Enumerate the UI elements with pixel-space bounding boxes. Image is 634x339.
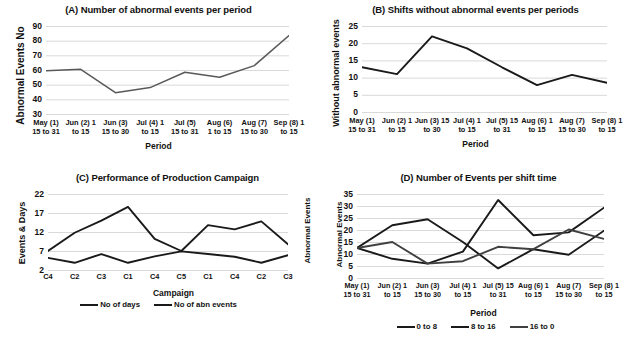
- x-tick-label: Aug (7)15 to 30: [552, 116, 592, 134]
- chart-b-plot-area: [362, 26, 607, 112]
- legend-line-icon: [80, 304, 98, 306]
- chart-d-legend: 0 to 88 to 1616 to 0: [317, 323, 634, 331]
- y-tick-label: 30: [20, 110, 42, 119]
- y-tick-label: 40: [20, 95, 42, 104]
- x-tick-label: Jul (4) 1to 15: [443, 282, 483, 300]
- y-tick-label: 50: [20, 80, 42, 89]
- x-tick-label: Sep (8) 1to 15: [584, 282, 624, 300]
- chart-a-plot-area: [46, 26, 289, 114]
- y-tick-label: 10: [336, 73, 358, 82]
- chart-a-x-axis-title: Period: [0, 141, 317, 151]
- x-tick-label: Jul (4) 1to 15: [447, 116, 487, 134]
- x-tick-label: C1: [195, 272, 221, 281]
- legend-item[interactable]: 0 to 8: [397, 323, 437, 331]
- x-tick-label: C2: [62, 272, 88, 281]
- x-tick-label: C3: [88, 272, 114, 281]
- chart-c-y-axis-title-right: Abnormal Events: [303, 176, 312, 286]
- x-tick-label: Sep (8) 1to 15: [587, 116, 627, 134]
- legend-line-icon: [451, 326, 469, 328]
- legend-label: 16 to 0: [530, 323, 555, 331]
- x-tick-label: Jul (5) 15to 31: [482, 116, 522, 134]
- legend-label: 0 to 8: [417, 323, 437, 331]
- x-tick-label: C4: [35, 272, 61, 281]
- chart-d-y-axis-title: Abnormal Events: [335, 183, 344, 287]
- x-tick-label: Jun (3) 15to 30: [412, 116, 452, 134]
- x-tick-label: C4: [142, 272, 168, 281]
- y-tick-label: 90: [20, 22, 42, 31]
- y-tick-label: 30: [331, 202, 353, 211]
- y-tick-label: 22: [22, 190, 44, 199]
- y-tick-label: 80: [20, 36, 42, 45]
- legend-label: 8 to 16: [471, 323, 496, 331]
- x-tick-label: Aug (6) 1to 15: [513, 282, 553, 300]
- chart-panel-d: (D) Number of Events per shift time Abno…: [317, 168, 634, 339]
- legend-item[interactable]: 16 to 0: [510, 323, 555, 331]
- x-tick-label: May (1)15 to 31: [337, 282, 377, 300]
- y-tick-label: 5: [336, 90, 358, 99]
- chart-c-legend: No of daysNo of abn events: [0, 301, 317, 309]
- legend-item[interactable]: No of days: [80, 301, 140, 309]
- legend-label: No of days: [100, 301, 140, 309]
- chart-d-svg: [357, 194, 604, 279]
- x-tick-label: Jun (2) 1to 15: [377, 116, 417, 134]
- x-tick-label: Sep (8) 1to 15: [269, 118, 309, 136]
- chart-d-plot-area: [357, 194, 604, 278]
- chart-d-x-axis-title: Period: [317, 308, 634, 318]
- x-tick-label: Aug (6) 1to 15: [517, 116, 557, 134]
- y-tick-label: 25: [331, 214, 353, 223]
- y-tick-label: 0: [336, 108, 358, 117]
- legend-line-icon: [510, 326, 528, 328]
- x-tick-label: Aug (7)15 to 30: [549, 282, 589, 300]
- y-tick-label: 17: [22, 209, 44, 218]
- x-tick-label: Jun (3)15 to 30: [408, 282, 448, 300]
- chart-panel-b: (B) Shifts without abnormal events per p…: [317, 0, 634, 168]
- y-tick-label: 15: [331, 238, 353, 247]
- legend-item[interactable]: 8 to 16: [451, 323, 496, 331]
- y-tick-label: 20: [331, 226, 353, 235]
- chart-panel-c: (C) Performance of Production Campaign E…: [0, 168, 317, 339]
- chart-b-svg: [362, 26, 607, 113]
- x-tick-label: Jul (5) 15to 31: [478, 282, 518, 300]
- y-tick-label: 10: [331, 250, 353, 259]
- chart-d-title: (D) Number of Events per shift time: [317, 172, 634, 183]
- chart-c-title: (C) Performance of Production Campaign: [0, 172, 317, 183]
- chart-c-x-axis-title: Campaign: [0, 288, 317, 298]
- y-tick-label: 20: [336, 39, 358, 48]
- x-tick-label: May (1)15 to 31: [342, 116, 382, 134]
- series-line-no-of-abn-events: [48, 251, 288, 262]
- x-tick-label: Jun (2) 1to 15: [372, 282, 412, 300]
- y-tick-label: 25: [336, 22, 358, 31]
- series-line-a: [46, 36, 289, 93]
- legend-line-icon: [154, 304, 172, 306]
- chart-a-title: (A) Number of abnormal events per period: [0, 4, 317, 15]
- y-tick-label: 5: [331, 262, 353, 271]
- chart-c-plot-area: [48, 194, 288, 270]
- y-tick-label: 60: [20, 66, 42, 75]
- y-tick-label: 70: [20, 51, 42, 60]
- figure-canvas: (A) Number of abnormal events per period…: [0, 0, 634, 339]
- y-tick-label: 35: [331, 190, 353, 199]
- x-tick-label: C1: [115, 272, 141, 281]
- chart-a-svg: [46, 26, 289, 115]
- chart-panel-a: (A) Number of abnormal events per period…: [0, 0, 317, 168]
- y-tick-label: 15: [336, 56, 358, 65]
- legend-line-icon: [397, 326, 415, 328]
- x-tick-label: C4: [222, 272, 248, 281]
- y-tick-label: 12: [22, 228, 44, 237]
- legend-label: No of abn events: [174, 301, 237, 309]
- chart-b-title: (B) Shifts without abnormal events per p…: [317, 4, 634, 15]
- x-tick-label: C5: [168, 272, 194, 281]
- x-tick-label: C2: [248, 272, 274, 281]
- chart-b-x-axis-title: Period: [317, 139, 634, 149]
- y-tick-label: 7: [22, 247, 44, 256]
- chart-c-svg: [48, 194, 288, 271]
- legend-item[interactable]: No of abn events: [154, 301, 237, 309]
- x-tick-label: C3: [275, 272, 301, 281]
